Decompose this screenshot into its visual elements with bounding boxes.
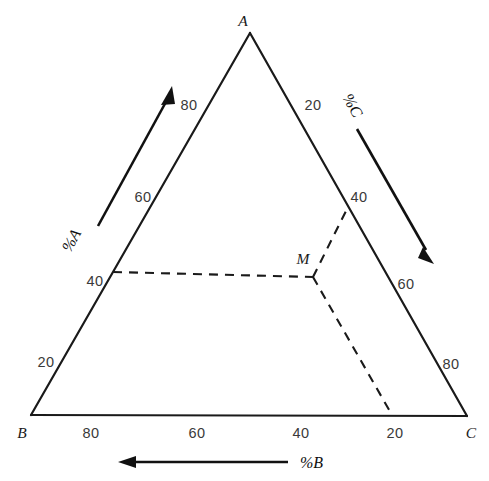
tick-left-20: 20: [38, 354, 55, 370]
point-label-m: M: [296, 250, 311, 267]
tick-bottom-20: 20: [387, 425, 404, 441]
tick-bottom-40: 40: [293, 425, 310, 441]
tick-left-60: 60: [135, 189, 152, 205]
tick-right-80: 80: [443, 356, 460, 372]
ternary-diagram: A B C M 80 60 40 20 20 40 60 80 80 60 40…: [0, 0, 489, 481]
vertex-label-b: B: [17, 424, 27, 441]
tick-right-60: 60: [398, 276, 415, 292]
vertex-label-c: C: [466, 424, 477, 441]
tick-bottom-60: 60: [189, 425, 206, 441]
tick-left-80: 80: [181, 97, 198, 113]
triangle-bottom-edge: [31, 415, 467, 416]
vertex-label-a: A: [237, 12, 248, 29]
axis-title-b: %B: [300, 454, 323, 471]
tick-right-40: 40: [351, 189, 368, 205]
ternary-diagram-svg: A B C M 80 60 40 20 20 40 60 80 80 60 40…: [0, 0, 489, 481]
tick-bottom-80: 80: [83, 425, 100, 441]
tick-right-20: 20: [305, 97, 322, 113]
tick-left-40: 40: [87, 273, 104, 289]
